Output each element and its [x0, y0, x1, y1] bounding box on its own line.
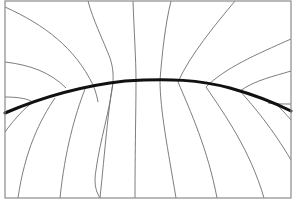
- diagram-svg: [0, 0, 296, 203]
- field-line-diagram: [0, 0, 296, 203]
- diagram-background: [0, 0, 296, 203]
